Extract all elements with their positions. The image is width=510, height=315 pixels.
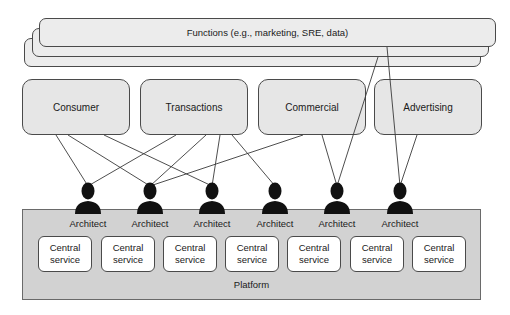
service-line2: service — [299, 254, 329, 265]
service-line2: service — [113, 254, 143, 265]
line-functions-arch6 — [387, 47, 400, 186]
architect-label: Architect — [307, 218, 367, 229]
service-line1: Central — [237, 242, 268, 253]
architect-icon — [385, 182, 415, 214]
architect-icon — [322, 182, 352, 214]
architect-label: Architect — [120, 218, 180, 229]
architect-icon — [135, 182, 165, 214]
service-line1: Central — [299, 242, 330, 253]
line-commercial-arch5 — [322, 135, 337, 186]
architect-icon — [73, 182, 103, 214]
service-line2: service — [237, 254, 267, 265]
central-service-box: Centralservice — [163, 236, 217, 272]
line-commercial-arch2 — [150, 135, 303, 186]
line-consumer-arch2 — [68, 135, 150, 186]
central-service-box: Centralservice — [38, 236, 92, 272]
service-line1: Central — [175, 242, 206, 253]
central-service-box: Centralservice — [287, 236, 341, 272]
line-functions-arch5 — [337, 57, 378, 186]
architect-label: Architect — [245, 218, 305, 229]
central-service-box: Centralservice — [101, 236, 155, 272]
line-transactions-arch4 — [232, 135, 275, 186]
central-service-box: Centralservice — [225, 236, 279, 272]
central-service-box: Centralservice — [412, 236, 466, 272]
service-line1: Central — [424, 242, 455, 253]
service-line2: service — [175, 254, 205, 265]
line-transactions-arch1 — [88, 135, 176, 186]
service-line1: Central — [113, 242, 144, 253]
service-line2: service — [424, 254, 454, 265]
line-advertising-arch6 — [400, 135, 417, 186]
service-line2: service — [362, 254, 392, 265]
architect-label: Architect — [370, 218, 430, 229]
architect-label: Architect — [58, 218, 118, 229]
architect-label: Architect — [182, 218, 242, 229]
line-transactions-arch3 — [212, 135, 220, 186]
line-consumer-arch1 — [56, 135, 88, 186]
architect-icon — [197, 182, 227, 214]
service-line1: Central — [362, 242, 393, 253]
architect-icon — [260, 182, 290, 214]
service-line2: service — [50, 254, 80, 265]
platform-label: Platform — [22, 279, 481, 290]
central-service-box: Centralservice — [350, 236, 404, 272]
service-line1: Central — [50, 242, 81, 253]
